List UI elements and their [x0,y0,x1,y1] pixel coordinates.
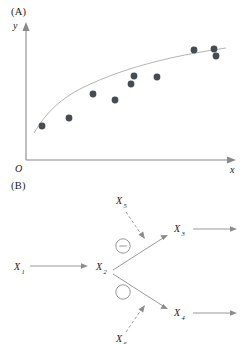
node-x3-base: X [173,223,181,234]
edge-x4-outcome-arrowhead [230,310,237,316]
edge-x6-moderation [126,310,141,332]
node-label-x3: X 3 [173,223,186,237]
node-x5-base: X [115,195,123,206]
node-x3-sub: 3 [181,230,186,237]
node-x1-sub: 1 [22,268,25,275]
edge-x2-x3 [113,238,163,270]
edge-x5-moderation-arrowhead [139,232,146,239]
edge-x5-moderation [126,212,141,234]
data-point [39,123,46,130]
edge-x1-x2-arrowhead [81,263,88,269]
panel-b: (B) [0,176,250,344]
node-label-x4: X 4 [173,307,186,321]
node-x4-sub: 4 [182,314,186,321]
data-point [131,73,138,80]
data-point-group [39,46,220,130]
operator-circle-lower [116,285,130,299]
data-point [128,81,135,88]
fit-curve-path [34,48,226,133]
node-x1-base: X [13,261,21,272]
panel-a-label: (A) [11,6,26,17]
edge-x2-x4 [113,274,163,306]
panel-b-label: (B) [11,180,26,191]
data-point [213,53,220,60]
x-axis-arrowhead [227,156,236,163]
data-point [211,46,218,53]
node-label-x2: X 2 [95,261,108,275]
y-axis-arrowhead [22,22,29,31]
node-label-x6: X 6 [115,333,128,344]
operator-node-lower [116,285,130,299]
node-x2-sub: 2 [104,268,108,275]
node-label-x5: X 5 [115,195,128,209]
scatter-plot-svg: y x O [0,0,250,176]
node-x6-sub: 6 [124,340,128,344]
path-diagram-svg: X 1 X 2 X 3 X 4 X 5 X 6 [0,176,250,344]
node-x4-base: X [173,307,181,318]
panel-a: (A) y x O [0,0,250,176]
data-point [66,115,73,122]
edge-x6-moderation-arrowhead [139,305,146,312]
data-point [191,47,198,54]
edge-x3-outcome-arrowhead [230,226,237,232]
figure-root: (A) y x O [0,0,250,344]
y-axis-label: y [12,20,18,31]
origin-label: O [15,163,22,174]
node-x6-base: X [115,333,123,344]
operator-node-upper [116,239,130,253]
data-point [154,74,161,81]
data-point [112,97,119,104]
node-x2-base: X [95,261,103,272]
data-point [90,91,97,98]
node-x5-sub: 5 [124,202,128,209]
node-label-x1: X 1 [13,261,25,275]
x-axis-label: x [229,164,235,175]
